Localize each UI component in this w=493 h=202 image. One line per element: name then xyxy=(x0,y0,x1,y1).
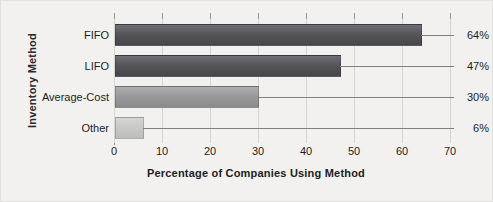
y-axis-category-label: FIFO xyxy=(84,28,109,42)
bar-value-label: 30% xyxy=(453,90,489,104)
x-tick-mark xyxy=(162,13,163,19)
x-gridline xyxy=(450,13,451,143)
x-axis-tick-label: 10 xyxy=(142,145,182,157)
bar xyxy=(115,86,259,108)
x-axis-tick-label: 20 xyxy=(190,145,230,157)
x-axis-tick-labels: 010203040506070 xyxy=(114,145,450,161)
x-axis-tick-label: 50 xyxy=(334,145,374,157)
value-leader-line xyxy=(143,128,454,129)
y-axis-category-label: LIFO xyxy=(85,59,109,73)
bar-value-labels: 64%47%30%6% xyxy=(453,19,493,143)
plot-area xyxy=(114,19,450,143)
x-axis-tick-label: 0 xyxy=(94,145,134,157)
y-axis-category-label: Average-Cost xyxy=(42,90,109,104)
value-leader-line xyxy=(340,66,454,67)
y-axis-category-label: Other xyxy=(81,121,109,135)
y-axis-category-labels: FIFOLIFOAverage-CostOther xyxy=(31,19,113,143)
x-axis-title: Percentage of Companies Using Method xyxy=(61,167,451,179)
bar-value-label: 47% xyxy=(453,59,489,73)
value-leader-line xyxy=(421,35,454,36)
x-tick-mark xyxy=(210,13,211,19)
x-axis-tick-label: 60 xyxy=(382,145,422,157)
bar-value-label: 64% xyxy=(453,28,489,42)
x-tick-mark xyxy=(306,13,307,19)
x-axis-tick-label: 40 xyxy=(286,145,326,157)
bar-chart-figure: Inventory Method FIFOLIFOAverage-CostOth… xyxy=(0,0,493,202)
bar xyxy=(115,117,144,139)
bar xyxy=(115,24,422,46)
x-tick-mark xyxy=(114,13,115,19)
value-leader-line xyxy=(258,97,454,98)
x-tick-mark xyxy=(450,13,451,19)
bar xyxy=(115,55,341,77)
x-tick-mark xyxy=(258,13,259,19)
bar-value-label: 6% xyxy=(453,121,489,135)
x-axis-tick-label: 70 xyxy=(430,145,470,157)
x-tick-mark xyxy=(354,13,355,19)
x-axis-tick-label: 30 xyxy=(238,145,278,157)
x-tick-mark xyxy=(402,13,403,19)
